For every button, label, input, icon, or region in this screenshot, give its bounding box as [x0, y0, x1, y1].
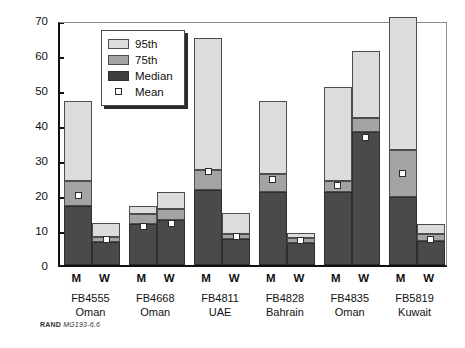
- legend-item-95th: 95th: [108, 36, 178, 52]
- x-tick-label-FB4835-M: M: [322, 272, 350, 284]
- y-tick-label: 10: [22, 226, 48, 238]
- legend-item-median: Median: [108, 68, 178, 84]
- mean-marker: [75, 192, 82, 199]
- bar-segment-median: [129, 224, 157, 265]
- figure-container: Days 010203040506070 MWFB4555OmanMWFB466…: [0, 0, 465, 348]
- legend: 95th 75th Median Mean: [101, 30, 185, 106]
- mean-marker: [362, 134, 369, 141]
- bar-FB4828-M: [259, 101, 287, 265]
- legend-swatch-mean-icon: [108, 87, 129, 97]
- bar-FB4835-W: [352, 51, 380, 265]
- bar-segment-median: [389, 197, 417, 265]
- mean-marker: [334, 182, 341, 189]
- group-id: FB4811: [201, 292, 239, 304]
- legend-swatch-median-icon: [108, 71, 129, 81]
- bar-segment-95th: [259, 101, 287, 174]
- legend-item-mean: Mean: [108, 84, 178, 100]
- bar-segment-median: [92, 242, 120, 265]
- bar-FB4811-M: [194, 38, 222, 265]
- bar-FB4828-W: [287, 233, 315, 265]
- group-id: FB4835: [330, 292, 369, 304]
- x-tick-label-FB5819-M: M: [387, 272, 415, 284]
- footer-brand: RAND: [40, 321, 61, 328]
- bar-segment-median: [222, 239, 250, 265]
- x-tick-label-FB4555-M: M: [62, 272, 90, 284]
- bar-FB4668-M: [129, 206, 157, 266]
- y-tick-label: 60: [22, 51, 48, 63]
- x-tick-label-FB4811-W: W: [220, 272, 248, 284]
- mean-marker: [297, 237, 304, 244]
- x-tick-label-FB4668-W: W: [155, 272, 183, 284]
- y-tick-label: 50: [22, 86, 48, 98]
- x-tick-label-FB4811-M: M: [192, 272, 220, 284]
- group-id: FB4828: [266, 292, 305, 304]
- bar-FB4835-M: [324, 87, 352, 265]
- bar-segment-median: [259, 192, 287, 266]
- bar-segment-95th: [417, 224, 445, 235]
- footer-code: MG193-6.6: [63, 321, 100, 328]
- bar-segment-75th: [352, 118, 380, 132]
- x-group-label-FB5819: FB5819Kuwait: [367, 291, 463, 319]
- x-tick-label-FB4555-W: W: [90, 272, 118, 284]
- legend-swatch-95th-icon: [108, 39, 129, 49]
- bar-segment-95th: [157, 192, 185, 210]
- mean-marker: [140, 223, 147, 230]
- x-tick-label-FB4668-M: M: [127, 272, 155, 284]
- legend-label-mean: Mean: [135, 86, 164, 98]
- mean-marker: [168, 220, 175, 227]
- bar-segment-95th: [352, 51, 380, 118]
- group-id: FB5819: [395, 292, 434, 304]
- bar-FB4555-M: [64, 101, 92, 266]
- x-tick-label-FB4828-W: W: [285, 272, 313, 284]
- bar-segment-median: [324, 192, 352, 265]
- bar-segment-95th: [129, 206, 157, 215]
- bar-segment-median: [352, 132, 380, 265]
- bar-segment-95th: [194, 38, 222, 170]
- bar-segment-95th: [324, 87, 352, 181]
- bar-segment-median: [417, 241, 445, 266]
- bar-segment-median: [64, 206, 92, 266]
- y-tick-label: 0: [22, 261, 48, 273]
- bar-segment-95th: [389, 17, 417, 151]
- bar-segment-75th: [157, 209, 185, 220]
- y-tick-label: 70: [22, 16, 48, 28]
- bar-segment-median: [194, 190, 222, 265]
- bar-segment-median: [287, 243, 315, 265]
- group-country: Kuwait: [367, 305, 463, 319]
- legend-label-75th: 75th: [135, 54, 157, 66]
- legend-item-75th: 75th: [108, 52, 178, 68]
- mean-marker: [103, 236, 110, 243]
- bar-FB4555-W: [92, 223, 120, 265]
- bar-segment-95th: [64, 101, 92, 182]
- y-tick-label: 30: [22, 156, 48, 168]
- mean-marker: [427, 236, 434, 243]
- bar-FB5819-M: [389, 17, 417, 266]
- mean-marker: [269, 176, 276, 183]
- y-tick-label: 40: [22, 121, 48, 133]
- mean-marker: [205, 168, 212, 175]
- legend-swatch-75th-icon: [108, 55, 129, 65]
- x-tick-label-FB4835-W: W: [350, 272, 378, 284]
- mean-marker: [399, 170, 406, 177]
- legend-label-95th: 95th: [135, 38, 157, 50]
- group-id: FB4668: [136, 292, 175, 304]
- figure-footer: RAND MG193-6.6: [40, 321, 100, 328]
- legend-label-median: Median: [135, 70, 173, 82]
- y-tick-label: 20: [22, 191, 48, 203]
- bar-FB4668-W: [157, 192, 185, 266]
- group-id: FB4555: [71, 292, 110, 304]
- bar-FB5819-W: [417, 224, 445, 265]
- bar-segment-95th: [222, 213, 250, 233]
- x-tick-label-FB4828-M: M: [257, 272, 285, 284]
- bar-segment-95th: [92, 223, 120, 237]
- bar-FB4811-W: [222, 213, 250, 265]
- x-tick-label-FB5819-W: W: [415, 272, 443, 284]
- mean-marker: [233, 233, 240, 240]
